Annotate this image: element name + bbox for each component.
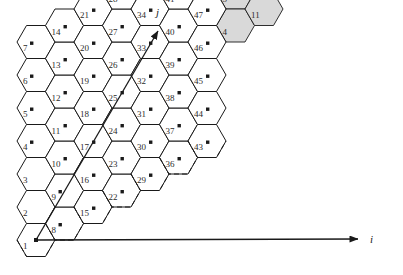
hex-label-18: 18: [80, 109, 90, 119]
base-station-marker-18: [92, 108, 95, 111]
hex-label-24: 24: [109, 126, 119, 136]
base-station-marker-47: [206, 9, 209, 12]
hex-label-12: 12: [52, 93, 61, 103]
base-station-marker-46: [206, 42, 209, 45]
base-station-marker-6: [30, 75, 33, 78]
hex-label-4: 4: [23, 142, 28, 152]
hex-label-22: 22: [109, 192, 118, 202]
hex-label-34: 34: [137, 10, 147, 20]
base-station-marker-32: [149, 75, 152, 78]
hex-label-7: 7: [23, 43, 28, 53]
hex-label-41: 41: [166, 0, 175, 4]
hex-label-5: 5: [223, 0, 228, 4]
hex-label-15: 15: [80, 208, 90, 218]
base-station-marker-36: [178, 157, 181, 160]
hex-label-27: 27: [109, 27, 119, 37]
hex-label-33: 33: [137, 43, 147, 53]
base-station-marker-33: [149, 42, 152, 45]
hex-label-31: 31: [137, 109, 146, 119]
hex-label-4: 4: [223, 27, 228, 37]
base-station-marker-31: [149, 108, 152, 111]
hex-label-3: 3: [23, 175, 28, 185]
hex-label-9: 9: [52, 192, 57, 202]
base-station-marker-30: [149, 141, 152, 144]
base-station-marker-10: [64, 157, 67, 160]
hex-label-6: 6: [23, 76, 28, 86]
base-station-marker-45: [206, 75, 209, 78]
base-station-marker-22: [121, 190, 124, 193]
base-station-marker-15: [92, 207, 95, 210]
base-station-marker-5: [30, 108, 33, 111]
base-station-marker-20: [92, 42, 95, 45]
hex-label-38: 38: [166, 93, 176, 103]
hex-label-13: 13: [52, 60, 62, 70]
origin-marker: [34, 238, 38, 242]
base-station-marker-21: [92, 9, 95, 12]
base-station-marker-9: [59, 190, 62, 193]
hex-label-37: 37: [166, 126, 176, 136]
hex-label-36: 36: [166, 159, 176, 169]
base-station-marker-12: [64, 91, 67, 94]
hex-label-1: 1: [23, 241, 28, 251]
base-station-marker-38: [178, 91, 181, 94]
hex-label-25: 25: [109, 93, 119, 103]
hex-label-8: 8: [52, 225, 57, 235]
hex-label-21: 21: [80, 10, 89, 20]
base-station-marker-11: [64, 124, 67, 127]
hex-label-16: 16: [80, 175, 90, 185]
hex-label-11: 11: [52, 126, 61, 136]
base-station-marker-43: [206, 141, 209, 144]
hex-label-40: 40: [166, 27, 176, 37]
base-station-marker-7: [30, 42, 33, 45]
base-station-marker-13: [64, 58, 67, 61]
hex-label-30: 30: [137, 142, 147, 152]
base-station-marker-8: [59, 223, 62, 226]
hex-label-5: 5: [23, 109, 28, 119]
hex-label-44: 44: [194, 109, 204, 119]
base-station-marker-34: [149, 9, 152, 12]
base-station-marker-40: [178, 25, 181, 28]
hex-label-11: 11: [251, 10, 260, 20]
base-station-marker-26: [121, 58, 124, 61]
hex-label-32: 32: [137, 76, 146, 86]
base-station-marker-24: [121, 124, 124, 127]
base-station-marker-16: [92, 174, 95, 177]
hex-label-43: 43: [194, 142, 204, 152]
hex-label-19: 19: [80, 76, 90, 86]
base-station-marker-17: [92, 141, 95, 144]
hex-label-2: 2: [23, 208, 28, 218]
hex-label-39: 39: [166, 60, 176, 70]
hex-label-20: 20: [80, 43, 90, 53]
hex-label-47: 47: [194, 10, 204, 20]
base-station-marker-27: [121, 25, 124, 28]
hex-label-46: 46: [194, 43, 204, 53]
hex-label-23: 23: [109, 159, 119, 169]
base-station-marker-23: [121, 157, 124, 160]
base-station-marker-37: [178, 124, 181, 127]
hex-label-17: 17: [80, 142, 90, 152]
base-station-marker-39: [178, 58, 181, 61]
base-station-marker-25: [121, 91, 124, 94]
hex-label-10: 10: [52, 159, 62, 169]
base-station-marker-44: [206, 108, 209, 111]
hex-cluster-figure: 2936437613512411123456789101112131415161…: [0, 0, 403, 275]
hex-label-28: 28: [109, 0, 119, 4]
base-station-marker-29: [149, 174, 152, 177]
base-station-marker-19: [92, 75, 95, 78]
hex-label-14: 14: [52, 27, 62, 37]
hex-label-26: 26: [109, 60, 119, 70]
hex-grid-canvas: 2936437613512411123456789101112131415161…: [0, 0, 403, 275]
base-station-marker-14: [64, 25, 67, 28]
i-axis-arrow: [36, 239, 358, 240]
hex-label-45: 45: [194, 76, 204, 86]
base-station-marker-4: [30, 141, 33, 144]
hex-label-29: 29: [137, 175, 147, 185]
i-axis-label: i: [370, 233, 373, 245]
